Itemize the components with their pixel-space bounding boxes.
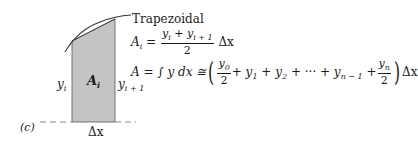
last-term-fraction: yn 2	[378, 58, 391, 86]
first-term-fraction: y0 2	[217, 58, 230, 86]
trapezoid-area-formula: Ai = yi + yi + 1 2 Δx	[131, 28, 234, 56]
method-title: Trapezoidal	[132, 13, 204, 25]
panel-label: (c)	[20, 122, 35, 133]
area-label: Ai	[87, 74, 100, 89]
composite-trapezoid-formula: A = ∫ y dx ≅( y0 2 + y1 + y2 + ··· + yn …	[131, 58, 418, 86]
left-height-label: yi	[57, 78, 66, 93]
fraction: yi + yi + 1 2	[161, 28, 214, 56]
delta-x-label: Δx	[88, 126, 103, 138]
